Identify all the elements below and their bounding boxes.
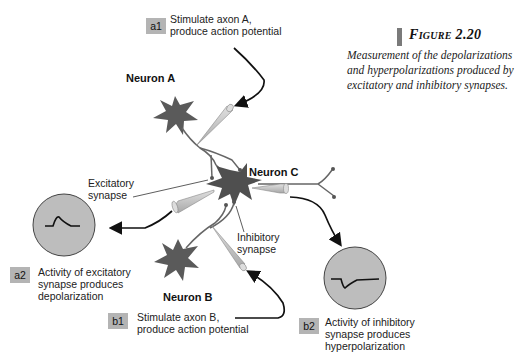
step-b2-line2: synapse produces (325, 328, 410, 340)
electrode-c-left (171, 190, 214, 213)
step-a2-line3: depolarization (38, 290, 103, 302)
step-a2-line1: Activity of excitatory (38, 266, 131, 278)
figure-title-bar (397, 28, 402, 46)
neuron-c-label: Neuron C (249, 166, 299, 178)
step-tag-a2: a2 (10, 267, 30, 283)
oscilloscope-a2 (33, 194, 95, 256)
inhibitory-synapse-line2: synapse (237, 243, 276, 255)
step-b1-line2: produce action potential (137, 323, 249, 335)
inhibitory-synapse-line1: Inhibitory (237, 231, 280, 243)
step-a1-line1: Stimulate axon A, (170, 13, 252, 25)
inhibitory-pointer (236, 206, 244, 232)
figure-title: Figure 2.20 (409, 27, 481, 43)
step-tag-b2: b2 (299, 318, 319, 334)
excitatory-synapse-line1: Excitatory (88, 177, 134, 189)
figure-caption: Measurement of the depolarizations and h… (347, 48, 516, 93)
step-b2-line1: Activity of inhibitory (325, 316, 415, 328)
arrow-b1 (235, 272, 284, 318)
axon-b (186, 206, 226, 248)
arrow-a1 (234, 48, 264, 105)
electrode-a (196, 103, 235, 146)
arrow-a2 (112, 211, 172, 228)
oscilloscope-b2 (324, 247, 386, 309)
step-tag-a1: a1 (146, 18, 166, 34)
excitatory-pointer (133, 180, 208, 197)
step-tag-b1: b1 (108, 313, 128, 329)
neuron-a-label: Neuron A (126, 72, 175, 84)
step-a1-line2: produce action potential (170, 25, 282, 37)
arrow-b2 (290, 197, 340, 244)
neuron-b-cell (154, 239, 199, 281)
electrode-c-right (252, 184, 289, 194)
step-b1-line1: Stimulate axon B, (137, 311, 219, 323)
neuron-a-cell (153, 96, 198, 135)
step-b2-line3: hyperpolarization (325, 340, 405, 352)
step-a2-line2: synapse produces (38, 278, 123, 290)
excitatory-synapse-line2: synapse (88, 189, 127, 201)
neuron-b-label: Neuron B (163, 291, 213, 303)
